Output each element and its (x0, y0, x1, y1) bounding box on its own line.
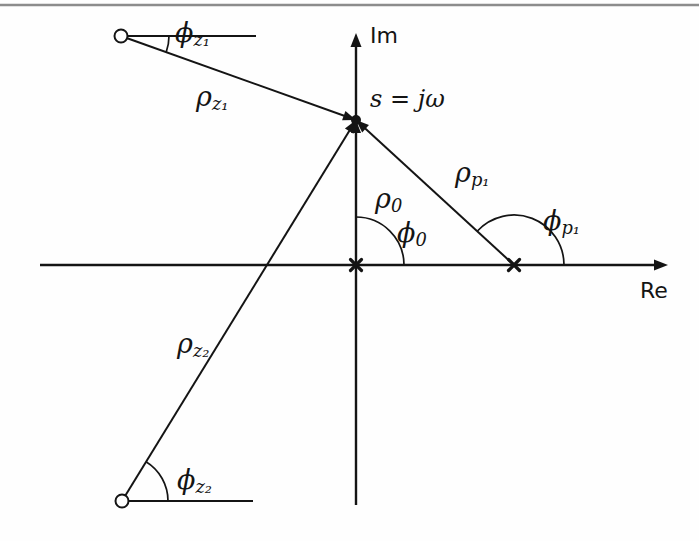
phi-z1-label: ϕz₁ (175, 17, 210, 51)
zero-lower-marker (116, 495, 129, 508)
phi-z1-arc (166, 36, 169, 52)
rho-0-label: ρ0 (374, 183, 402, 217)
rho-z1-line (121, 36, 356, 120)
phi-p1-label: ϕp₁ (543, 205, 580, 239)
rho-p1-label: ρp₁ (454, 157, 489, 191)
real-axis-arrowhead (654, 260, 668, 271)
annotation-group: s = jω (370, 85, 445, 113)
real-axis-label: Re (640, 278, 668, 303)
imaginary-axis-label: Im (370, 23, 398, 48)
phi-z2-arc (146, 462, 168, 501)
rho-z1-label: ρz₁ (195, 81, 228, 115)
zero-upper-marker (115, 30, 128, 43)
marker-group (115, 30, 520, 508)
rho-z2-label: ρz₂ (176, 328, 209, 362)
pole-zero-diagram: Re Im ρz₁ρz₂ρp₁ρ0 ϕz₁ϕz₂ϕ0ϕp₁ s = jω (0, 0, 699, 541)
reference-line-group (121, 36, 256, 501)
vector-label-group: ρz₁ρz₂ρp₁ρ0 (176, 81, 489, 362)
s-plane-canvas: Re Im ρz₁ρz₂ρp₁ρ0 ϕz₁ϕz₂ϕ0ϕp₁ s = jω (0, 0, 699, 541)
test-point-marker (351, 115, 361, 125)
phi-z2-label: ϕz₂ (177, 464, 212, 498)
vector-group (121, 36, 514, 501)
test-point-label: s = jω (370, 85, 445, 113)
rho-z2-line (122, 120, 356, 501)
phi-0-label: ϕ0 (397, 217, 427, 251)
imaginary-axis-arrowhead (351, 33, 362, 47)
